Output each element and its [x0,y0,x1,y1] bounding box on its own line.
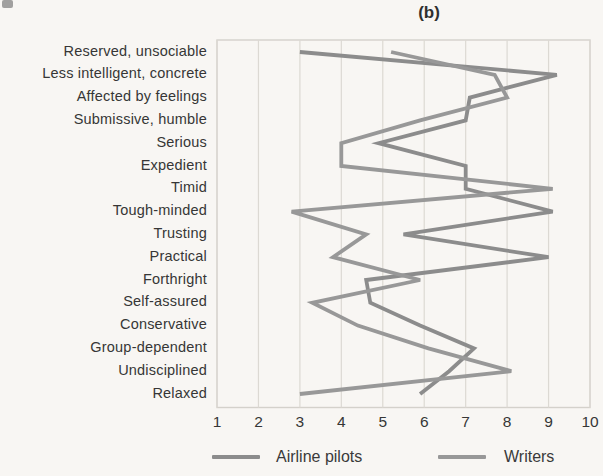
legend-marker-writers [438,455,486,459]
trait-label: Timid [0,179,207,195]
plot-border [217,40,590,408]
trait-label: Expedient [0,157,207,173]
trait-label: Self-assured [0,293,207,309]
trait-label: Conservative [0,316,207,332]
profile-figure-panel-b: (b) Reserved, unsociableLess intelligent… [0,0,603,476]
trait-label: Relaxed [0,385,207,401]
x-tick-label: 1 [205,413,229,431]
trait-label: Undisciplined [0,362,207,378]
x-tick-label: 4 [329,413,353,431]
legend-marker-airline-pilots [212,455,260,459]
x-tick-label: 9 [537,413,561,431]
trait-label: Serious [0,134,207,150]
legend-label-writers: Writers [504,448,554,466]
x-tick-label: 2 [246,413,270,431]
trait-label: Less intelligent, concrete [0,65,207,81]
trait-label: Practical [0,248,207,264]
trait-label: Trusting [0,225,207,241]
trait-label: Group-dependent [0,339,207,355]
x-tick-label: 8 [495,413,519,431]
trait-label: Reserved, unsociable [0,43,207,59]
x-tick-label: 3 [288,413,312,431]
x-tick-label: 10 [578,413,602,431]
trait-label: Tough-minded [0,202,207,218]
trait-label: Affected by feelings [0,88,207,104]
legend-label-airline-pilots: Airline pilots [276,448,362,466]
trait-label: Forthright [0,271,207,287]
trait-label: Submissive, humble [0,111,207,127]
x-tick-label: 7 [454,413,478,431]
x-tick-label: 6 [412,413,436,431]
series-line-airline-pilots [300,52,557,394]
x-tick-label: 5 [371,413,395,431]
series-line-writers [292,52,553,394]
